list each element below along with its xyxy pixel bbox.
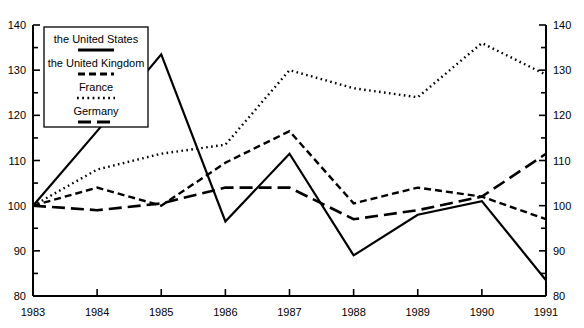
chart-canvas: 8090100110120130140 8090100110120130140 … bbox=[0, 0, 584, 328]
x-tick-label: 1991 bbox=[534, 306, 558, 318]
legend-label-the-united-states: the United States bbox=[54, 33, 139, 45]
x-tick-label: 1990 bbox=[470, 306, 494, 318]
x-tick-label: 1989 bbox=[406, 306, 430, 318]
x-tick-label: 1984 bbox=[85, 306, 109, 318]
y-tick-label-right: 120 bbox=[553, 109, 571, 121]
x-axis-tick-labels: 198319841985198619871988198919901991 bbox=[21, 306, 558, 318]
x-tick-label: 1987 bbox=[277, 306, 301, 318]
y-tick-label-left: 110 bbox=[8, 155, 26, 167]
legend-label-france: France bbox=[79, 81, 113, 93]
line-chart: 8090100110120130140 8090100110120130140 … bbox=[0, 0, 584, 328]
x-tick-label: 1988 bbox=[341, 306, 365, 318]
y-tick-label-right: 110 bbox=[553, 155, 571, 167]
y-tick-label-left: 130 bbox=[8, 64, 26, 76]
x-tick-label: 1983 bbox=[21, 306, 45, 318]
y-tick-label-left: 90 bbox=[14, 245, 26, 257]
chart-legend: the United Statesthe United KingdomFranc… bbox=[44, 27, 148, 127]
y-tick-label-left: 140 bbox=[8, 19, 26, 31]
y-tick-label-right: 130 bbox=[553, 64, 571, 76]
x-tick-label: 1985 bbox=[149, 306, 173, 318]
y-tick-label-left: 100 bbox=[8, 200, 26, 212]
legend-label-germany: Germany bbox=[73, 105, 119, 117]
y-tick-label-right: 90 bbox=[553, 245, 565, 257]
y-tick-label-left: 120 bbox=[8, 109, 26, 121]
y-tick-label-right: 80 bbox=[553, 290, 565, 302]
y-tick-label-right: 140 bbox=[553, 19, 571, 31]
legend-label-the-united-kingdom: the United Kingdom bbox=[48, 57, 145, 69]
y-tick-label-right: 100 bbox=[553, 200, 571, 212]
y-tick-label-left: 80 bbox=[14, 290, 26, 302]
x-tick-label: 1986 bbox=[213, 306, 237, 318]
